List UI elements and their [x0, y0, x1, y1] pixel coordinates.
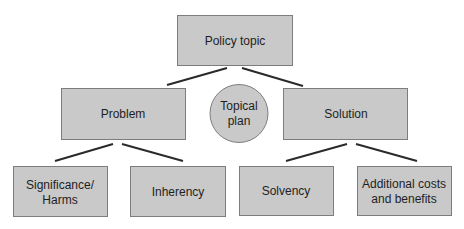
connector-policy-solution	[242, 68, 303, 86]
node-significance-harms: Significance/ Harms	[14, 167, 108, 217]
node-inherency: Inherency	[131, 167, 226, 217]
node-additional-label-line2: and benefits	[371, 192, 436, 206]
node-significance-label-line2: Harms	[42, 193, 77, 207]
node-significance-label-line1: Significance/	[26, 178, 95, 192]
node-policy-topic: Policy topic	[178, 16, 293, 66]
connector-problem-significance	[55, 144, 113, 161]
node-topical-plan-label-line2: plan	[228, 114, 251, 128]
node-solvency-label: Solvency	[262, 184, 311, 198]
node-problem: Problem	[62, 89, 186, 140]
connector-problem-inherency	[122, 144, 183, 161]
connector-solution-additional	[356, 144, 417, 161]
node-solvency: Solvency	[240, 167, 334, 216]
node-inherency-label: Inherency	[152, 185, 205, 199]
node-problem-label: Problem	[101, 107, 146, 121]
node-additional-label-line1: Additional costs	[362, 177, 446, 191]
node-solution-label: Solution	[324, 107, 367, 121]
connector-policy-problem	[167, 68, 227, 85]
node-solution: Solution	[284, 89, 408, 140]
diagram: Policy topic Problem Topical plan Soluti…	[0, 0, 464, 229]
node-topical-plan: Topical plan	[210, 85, 268, 143]
node-topical-plan-label-line1: Topical	[220, 99, 257, 113]
node-additional-costs-benefits: Additional costs and benefits	[358, 167, 452, 216]
node-policy-topic-label: Policy topic	[205, 34, 266, 48]
connector-solution-solvency	[286, 144, 347, 161]
